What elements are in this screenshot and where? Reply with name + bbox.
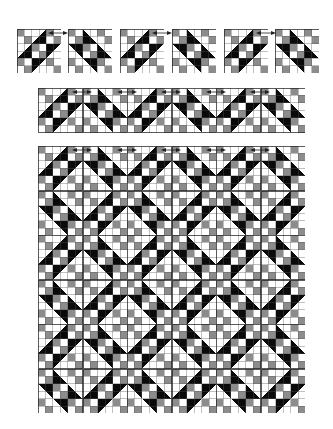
block-B-5 (275, 29, 319, 73)
quilt-block-r4-c1 (83, 324, 128, 369)
quilt-block-r5-c0 (38, 369, 83, 414)
double-arrow-icon (206, 139, 226, 145)
double-arrow-icon (117, 139, 137, 145)
quilt-block-r4-c5 (261, 324, 306, 369)
quilt-block-r2-c2 (127, 235, 172, 280)
quilt-block-r5-c3 (172, 369, 217, 414)
quilt-block-r4-c2 (127, 324, 172, 369)
quilt-block-r3-c0 (38, 280, 83, 325)
double-arrow-icon (72, 139, 92, 145)
quilt-block-r3-c3 (172, 280, 217, 325)
quilt-block-r3-c1 (83, 280, 128, 325)
double-arrow-icon (72, 81, 92, 87)
quilt-block-r3-c4 (216, 280, 261, 325)
quilt-block-r5-c1 (83, 369, 128, 414)
double-arrow-icon (161, 81, 181, 87)
quilt-block-r1-c0 (38, 191, 83, 236)
quilt-block-r5-c4 (216, 369, 261, 414)
quilt-block-r3-c2 (127, 280, 172, 325)
quilt-block-r2-c0 (38, 235, 83, 280)
quilt-block-r4-c3 (172, 324, 217, 369)
quilt-block-r1-c1 (83, 191, 128, 236)
quilt-block-r4-c0 (38, 324, 83, 369)
quilt-block-r2-c4 (216, 235, 261, 280)
double-arrow-icon (250, 81, 270, 87)
quilt-block-r1-c3 (172, 191, 217, 236)
quilt-diagram (0, 0, 333, 429)
quilt-block-r2-c1 (83, 235, 128, 280)
double-arrow-icon (48, 22, 68, 28)
quilt-block-r3-c5 (261, 280, 306, 325)
quilt-block-r1-c5 (261, 191, 306, 236)
quilt-block-r2-c5 (261, 235, 306, 280)
double-arrow-icon (152, 22, 172, 28)
quilt-block-r5-c5 (261, 369, 306, 414)
quilt-block-r1-c4 (216, 191, 261, 236)
double-arrow-icon (206, 81, 226, 87)
double-arrow-icon (161, 139, 181, 145)
block-B-3 (172, 29, 216, 73)
double-arrow-icon (256, 22, 276, 28)
block-B-1 (68, 29, 112, 73)
double-arrow-icon (117, 81, 137, 87)
quilt-block-r2-c3 (172, 235, 217, 280)
quilt-block-r5-c2 (127, 369, 172, 414)
double-arrow-icon (250, 139, 270, 145)
quilt-block-r4-c4 (216, 324, 261, 369)
quilt-block-r1-c2 (127, 191, 172, 236)
